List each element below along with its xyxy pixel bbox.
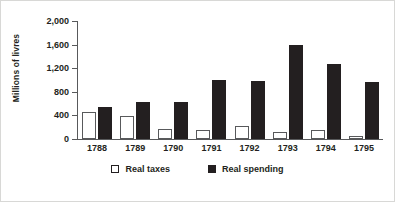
bar-real-spending (98, 107, 112, 139)
solid-square-icon (208, 165, 216, 173)
bar-real-spending (365, 82, 379, 139)
bar-real-taxes (273, 132, 287, 139)
y-tick-label: 0 (64, 134, 69, 144)
bar-real-taxes (196, 130, 210, 139)
x-tick-label: 1792 (230, 143, 270, 153)
x-tick-label: 1794 (306, 143, 346, 153)
legend-label-real-taxes: Real taxes (125, 164, 170, 174)
y-tick-mark (72, 139, 77, 140)
bar-real-taxes (311, 130, 325, 139)
bar-group: 1789 (120, 21, 150, 139)
y-tick-label: 1,200 (46, 63, 69, 73)
bar-real-taxes (158, 129, 172, 139)
y-tick-mark (72, 45, 77, 46)
plot-area: 04008001,2001,6002,000 17881789179017911… (77, 21, 382, 139)
x-tick-label: 1789 (115, 143, 155, 153)
y-tick-label: 400 (54, 110, 69, 120)
y-tick-mark (72, 21, 77, 22)
x-tick-label: 1788 (77, 143, 117, 153)
legend-item-real-taxes: Real taxes (111, 164, 170, 174)
y-tick-mark (72, 92, 77, 93)
bar-chart-figure: Millions of livres 04008001,2001,6002,00… (0, 0, 395, 202)
bar-real-taxes (349, 136, 363, 139)
y-tick-label: 1,600 (46, 40, 69, 50)
bar-real-spending (136, 102, 150, 139)
x-axis-line (77, 139, 383, 140)
bar-real-spending (327, 64, 341, 139)
bar-group: 1792 (235, 21, 265, 139)
y-tick-mark (72, 115, 77, 116)
bar-group: 1788 (82, 21, 112, 139)
bar-real-taxes (235, 126, 249, 139)
bar-group: 1794 (311, 21, 341, 139)
bar-real-spending (251, 81, 265, 139)
bar-group: 1791 (196, 21, 226, 139)
hollow-square-icon (111, 165, 119, 173)
y-axis-title: Millions of livres (11, 3, 25, 133)
y-tick-label: 800 (54, 87, 69, 97)
chart-legend: Real taxes Real spending (1, 164, 394, 174)
bar-group: 1790 (158, 21, 188, 139)
bar-real-spending (289, 45, 303, 139)
y-tick-label: 2,000 (46, 16, 69, 26)
y-tick-mark (72, 68, 77, 69)
bar-group: 1793 (273, 21, 303, 139)
x-tick-label: 1790 (153, 143, 193, 153)
bar-real-taxes (120, 116, 134, 139)
x-tick-label: 1795 (344, 143, 384, 153)
x-tick-label: 1793 (268, 143, 308, 153)
bar-real-spending (174, 102, 188, 139)
legend-item-real-spending: Real spending (208, 164, 284, 174)
bar-group: 1795 (349, 21, 379, 139)
bar-real-spending (212, 80, 226, 139)
legend-label-real-spending: Real spending (222, 164, 284, 174)
bar-real-taxes (82, 112, 96, 139)
x-tick-label: 1791 (191, 143, 231, 153)
